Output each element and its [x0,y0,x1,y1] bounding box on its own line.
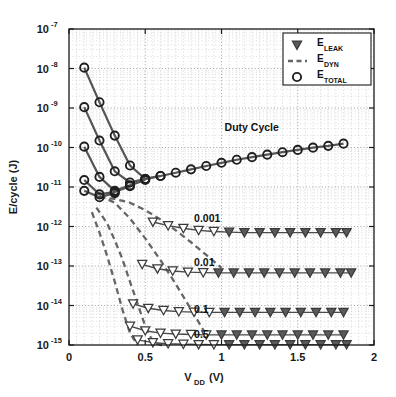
annotation-label: 0.5 [194,328,209,340]
svg-text:-10: -10 [51,139,62,148]
chart-legend: ELEAKEDYNETOTAL [283,33,371,85]
xtick-label: 0 [66,351,72,363]
annotation-label: Duty Cycle [225,121,279,133]
ytick-label: 10-12 [37,218,62,233]
ytick-label: 10-13 [37,257,62,272]
ytick-label: 10-9 [37,99,58,114]
legend-label-main: E [317,69,324,80]
svg-text:V: V [184,371,192,383]
svg-text:-8: -8 [51,60,58,69]
energy-per-cycle-chart: 00.511.5210-710-810-910-1010-1110-1210-1… [0,0,396,397]
svg-text:10: 10 [37,300,49,312]
ytick-label: 10-15 [37,336,62,351]
legend-label-main: E [317,37,324,48]
svg-text:-15: -15 [51,336,62,345]
svg-text:10: 10 [37,260,49,272]
legend-label-sub: TOTAL [324,77,347,84]
svg-text:(V): (V) [209,371,224,383]
svg-text:10: 10 [37,63,49,75]
y-axis-title: E/cycle (J) [7,159,19,214]
svg-text:10: 10 [37,221,49,233]
xtick-label: 1.5 [290,351,305,363]
legend-label-sub: DYN [324,61,339,68]
legend-label-sub: LEAK [324,45,343,52]
annotation-label: 0.001 [194,212,220,224]
svg-text:10: 10 [37,181,49,193]
x-axis-title: VDD (V) [184,371,224,387]
figure-container: 00.511.5210-710-810-910-1010-1110-1210-1… [0,0,396,397]
ytick-label: 10-14 [37,297,63,312]
svg-text:-14: -14 [51,297,63,306]
svg-text:-12: -12 [51,218,62,227]
svg-text:10: 10 [37,339,49,351]
svg-text:-11: -11 [51,178,61,187]
annotation-label: 0.01 [194,256,215,268]
ytick-label: 10-11 [37,178,62,193]
legend-label-main: E [317,53,324,64]
xtick-label: 1 [218,351,224,363]
xtick-label: 0.5 [138,351,153,363]
svg-text:10: 10 [37,102,49,114]
svg-text:10: 10 [37,23,49,35]
svg-text:-7: -7 [51,20,58,29]
ytick-label: 10-10 [37,139,62,154]
svg-text:10: 10 [37,142,49,154]
ytick-label: 10-8 [37,60,58,75]
svg-text:-13: -13 [51,257,62,266]
xtick-label: 2 [371,351,377,363]
ytick-label: 10-7 [37,20,58,35]
annotation-label: 0.1 [194,303,209,315]
svg-text:-9: -9 [51,99,58,108]
svg-text:DD: DD [194,378,205,387]
